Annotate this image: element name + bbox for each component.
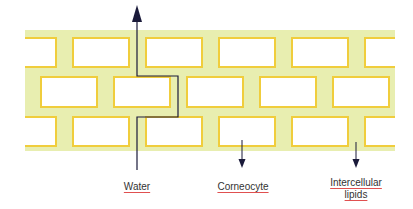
water-label: Water — [115, 181, 159, 193]
intercellular-lipids-label: Intercellular lipids — [320, 177, 392, 201]
lipids-label-line2: lipids — [345, 189, 368, 200]
corneocyte-label: Corneocyte — [208, 181, 278, 193]
water-path-arrow — [132, 5, 178, 170]
arrow-head-icon — [239, 159, 246, 168]
lipids-pointer-arrow — [353, 142, 360, 168]
lipids-label-line1: Intercellular — [330, 177, 382, 188]
corneocyte-label-text: Corneocyte — [217, 181, 268, 192]
arrow-head-icon — [132, 5, 142, 22]
arrow-head-icon — [353, 159, 360, 168]
corneocyte-pointer-arrow — [239, 140, 246, 168]
water-label-text: Water — [124, 181, 150, 192]
